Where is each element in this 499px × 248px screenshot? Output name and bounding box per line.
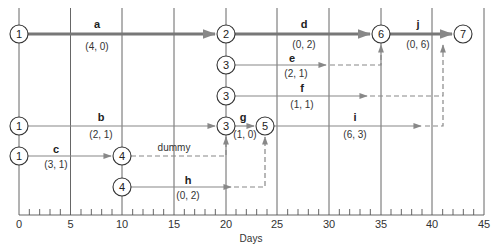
node-1-bottom: 1: [10, 147, 28, 165]
activity-h-label: h: [185, 174, 192, 186]
network-time-chart: 0 5 10 15 20 25 30 35 40 45 Days: [0, 0, 499, 248]
activity-g-values: (1, 0): [233, 129, 256, 140]
node-1-top: 1: [10, 25, 28, 43]
activity-g-label: g: [240, 111, 247, 123]
slack-lines: [131, 45, 443, 187]
tick-label: 5: [67, 218, 73, 230]
activity-d-label: d: [301, 18, 308, 30]
activity-j-values: (0, 6): [406, 39, 429, 50]
activity-j-label: j: [415, 18, 419, 30]
tick-label: 45: [478, 218, 490, 230]
tick-label: 40: [426, 218, 438, 230]
activity-c-label: c: [53, 143, 59, 155]
activity-labels: a (4, 0) d (0, 2) j (0, 6) e (2, 1) f (1…: [44, 18, 429, 201]
svg-text:2: 2: [223, 28, 229, 40]
x-axis-tick-labels: 0 5 10 15 20 25 30 35 40 45 Days: [16, 218, 490, 244]
node-3-g: 3: [217, 117, 235, 135]
node-3-e: 3: [217, 56, 235, 74]
svg-text:7: 7: [460, 28, 466, 40]
activity-h-values: (0, 2): [176, 190, 199, 201]
node-5: 5: [256, 117, 274, 135]
activity-f-values: (1, 1): [290, 99, 313, 110]
slack-i: [425, 100, 443, 126]
x-axis-label: Days: [240, 233, 263, 244]
activity-d-values: (0, 2): [292, 39, 315, 50]
tick-label: 15: [168, 218, 180, 230]
tick-label: 20: [220, 218, 232, 230]
node-4-h: 4: [113, 178, 131, 196]
svg-text:4: 4: [119, 150, 125, 162]
svg-text:4: 4: [119, 181, 125, 193]
node-2: 2: [217, 25, 235, 43]
svg-text:1: 1: [16, 120, 22, 132]
activity-c-values: (3, 1): [44, 159, 67, 170]
node-1-middle: 1: [10, 117, 28, 135]
activity-a-values: (4, 0): [85, 41, 108, 52]
tick-label: 35: [375, 218, 387, 230]
activity-i-label: i: [353, 111, 356, 123]
svg-text:5: 5: [262, 120, 268, 132]
tick-label: 0: [16, 218, 22, 230]
activity-b-label: b: [98, 111, 105, 123]
node-6: 6: [372, 25, 390, 43]
x-axis: [19, 209, 484, 215]
activity-a-label: a: [94, 18, 101, 30]
activity-e-label: e: [289, 52, 295, 64]
activity-b-values: (2, 1): [89, 129, 112, 140]
activity-f-label: f: [300, 82, 304, 94]
svg-text:3: 3: [223, 59, 229, 71]
dummy-label: dummy: [158, 142, 191, 153]
activity-e-values: (2, 1): [284, 68, 307, 79]
activity-i-values: (6, 3): [343, 129, 366, 140]
tick-label: 30: [323, 218, 335, 230]
svg-text:1: 1: [16, 28, 22, 40]
svg-text:6: 6: [378, 28, 384, 40]
slack-e: [330, 45, 381, 65]
node-3-f: 3: [217, 87, 235, 105]
svg-text:1: 1: [16, 150, 22, 162]
tick-label: 10: [116, 218, 128, 230]
svg-text:3: 3: [223, 90, 229, 102]
svg-text:3: 3: [223, 120, 229, 132]
node-4-c: 4: [113, 147, 131, 165]
tick-label: 25: [271, 218, 283, 230]
node-7: 7: [454, 25, 472, 43]
slack-h: [234, 137, 265, 187]
